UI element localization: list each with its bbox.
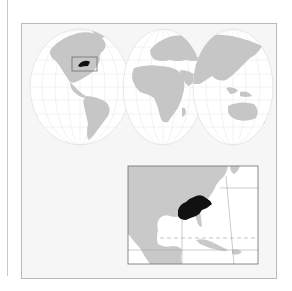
lobe-asia-australia [193, 29, 273, 145]
lobe-americas [30, 29, 130, 145]
locator-map [0, 0, 292, 291]
lobe-europe-africa [123, 29, 203, 145]
inset-map [128, 166, 258, 264]
world-map [30, 29, 273, 145]
